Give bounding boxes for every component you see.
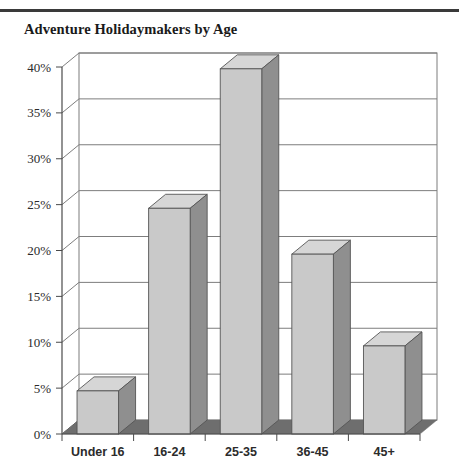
bar-column [363,332,422,434]
y-axis-tick-label: 5% [34,381,52,396]
y-axis-tick-label: 10% [27,335,51,350]
gridline-connector [62,191,79,205]
bar-front-face [220,69,262,434]
x-axis-tick-label: 16-24 [153,445,185,459]
y-axis-tick-label: 0% [34,427,52,442]
gridline-connector [62,53,79,67]
gridline-connector [62,237,79,251]
bar-side-face [405,332,422,434]
x-axis-tick-label: 25-35 [225,445,257,459]
x-axis-group: Under 1616-2425-3536-4545+ [62,434,420,459]
bar-column [292,240,351,434]
bar-front-face [363,346,405,434]
y-axis-tick-label: 15% [27,289,51,304]
y-axis-tick-label: 20% [27,243,51,258]
bar-front-face [149,208,191,434]
y-axis-tick-label: 35% [27,105,51,120]
chart-figure: Adventure Holidaymakers by Age 0%5%10%15… [0,0,459,476]
gridline-connector [62,282,79,296]
y-axis-tick-label: 30% [27,151,51,166]
bar-side-face [333,240,350,434]
bar-column [77,377,136,434]
x-axis-tick-label: 45+ [374,445,395,459]
x-axis-tick-label: 36-45 [297,445,329,459]
bar-column [149,194,208,434]
y-axis-tick-label: 40% [27,60,51,75]
gridline-connector [62,99,79,113]
bar-chart-plot: 0%5%10%15%20%25%30%35%40% Under 1616-242… [0,0,459,476]
bar-side-face [190,194,207,434]
gridline-connector [62,328,79,342]
y-axis-group: 0%5%10%15%20%25%30%35%40% [27,60,79,442]
bar-front-face [77,391,119,434]
bar-side-face [262,55,279,434]
gridline-connector [62,374,79,388]
bar-column [220,55,279,434]
y-axis-tick-label: 25% [27,197,51,212]
bar-front-face [292,254,334,434]
x-axis-tick-label: Under 16 [71,445,125,459]
gridline-connector [62,145,79,159]
